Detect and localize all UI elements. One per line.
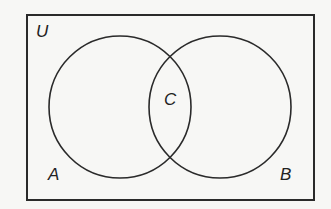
intersection-label: C (164, 90, 177, 109)
venn-diagram: U C A B (0, 0, 331, 209)
set-b-label: B (280, 165, 291, 184)
universe-label: U (36, 22, 49, 41)
set-a-label: A (47, 165, 59, 184)
